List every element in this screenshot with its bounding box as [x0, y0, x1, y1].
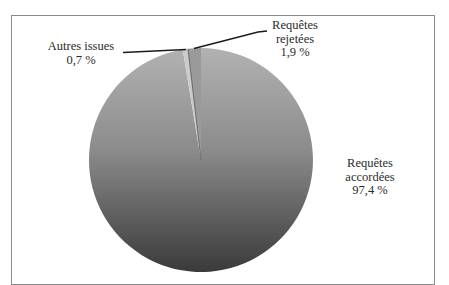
- label-requetes-accordees: Requêtes accordées 97,4 %: [330, 157, 410, 198]
- label-requetes-accordees-line1: Requêtes: [330, 157, 410, 171]
- label-autres-issues: Autres issues 0,7 %: [36, 40, 126, 67]
- label-requetes-accordees-value: 97,4 %: [330, 184, 410, 198]
- label-requetes-rejetees-value: 1,9 %: [258, 46, 332, 60]
- label-requetes-accordees-line2: accordées: [330, 171, 410, 185]
- label-requetes-rejetees-line2: rejetées: [258, 33, 332, 47]
- label-autres-issues-name: Autres issues: [36, 40, 126, 54]
- label-autres-issues-value: 0,7 %: [36, 54, 126, 68]
- label-requetes-rejetees-line1: Requêtes: [258, 19, 332, 33]
- label-requetes-rejetees: Requêtes rejetées 1,9 %: [258, 19, 332, 60]
- leader-line-requetes-rejetees: [194, 31, 267, 49]
